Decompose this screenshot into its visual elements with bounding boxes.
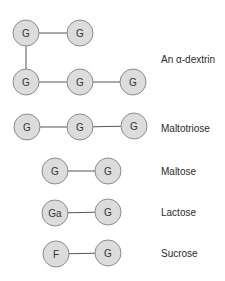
label-lactose: Lactose — [161, 207, 196, 218]
label-maltotriose: Maltotriose — [161, 123, 210, 134]
sugar-node-label: F — [53, 249, 59, 260]
label-alpha-dextrin: An α-dextrin — [161, 54, 215, 65]
sugar-node-label: G — [23, 122, 31, 133]
molecule-maltotriose: GGG — [14, 113, 147, 140]
sugar-node-label: G — [104, 248, 112, 259]
sugar-node-label: G — [76, 28, 84, 39]
molecule-alpha-dextrin: GGGGG — [13, 20, 146, 95]
sugar-node-label: G — [76, 77, 84, 88]
sugar-node-label: G — [104, 166, 112, 177]
label-maltose: Maltose — [161, 166, 196, 177]
label-sucrose: Sucrose — [161, 248, 198, 259]
molecule-maltose: GG — [42, 158, 121, 184]
sugar-node-label: G — [130, 121, 138, 132]
sugar-node-label: Ga — [48, 208, 62, 219]
carbohydrate-diagram: GGGGGGGGGGGaGFG — [0, 0, 225, 281]
sugar-node-label: G — [104, 207, 112, 218]
sugar-node-label: G — [51, 166, 59, 177]
molecule-lactose: GaG — [42, 199, 121, 226]
sugar-node-label: G — [22, 77, 30, 88]
sugar-node-label: G — [22, 28, 30, 39]
sugar-node-label: G — [76, 122, 84, 133]
molecule-sucrose: FG — [43, 240, 121, 267]
sugar-node-label: G — [129, 77, 137, 88]
